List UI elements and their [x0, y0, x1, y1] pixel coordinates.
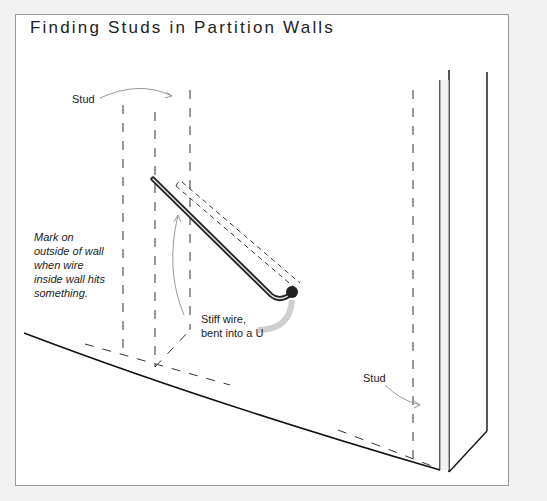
hidden-studs [85, 90, 437, 468]
wall-bottom-edge [24, 333, 440, 470]
wire-hole [286, 286, 298, 298]
stud-label-top: Stud [72, 92, 95, 106]
wall-bottom-return [449, 431, 487, 472]
stud-label-bottom: Stud [363, 371, 386, 385]
wall-end-texture [440, 80, 449, 470]
figure-title: Finding Studs in Partition Walls [30, 18, 335, 38]
wire-inside-wall [176, 182, 300, 289]
